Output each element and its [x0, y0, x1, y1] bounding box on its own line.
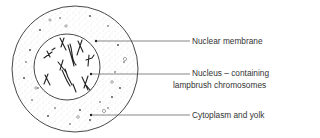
nucleus-region — [34, 34, 100, 100]
nucleus-label-line2: lampbrush chromosomes — [173, 80, 266, 90]
nuclear-membrane-label: Nuclear membrane — [192, 36, 263, 46]
cytoplasm-label: Cytoplasm and yolk — [192, 110, 264, 120]
nucleus-label-line1: Nucleus – containing — [192, 68, 269, 78]
